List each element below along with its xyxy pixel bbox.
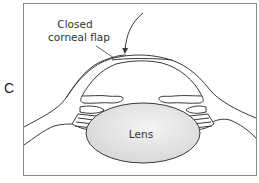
flap-arrow — [125, 13, 143, 51]
sclera-left-inner — [24, 124, 72, 145]
flap-label-line2: corneal flap — [48, 31, 110, 43]
eye-cross-section-diagram: Closed corneal flap Lens — [0, 0, 259, 183]
corneal-flap-line — [112, 59, 172, 61]
iris-right — [159, 96, 203, 104]
sclera-right-inner — [208, 119, 256, 138]
flap-leader-line — [96, 46, 114, 58]
iris-left — [81, 96, 123, 104]
flap-label-line1: Closed — [57, 18, 92, 30]
lens-label: Lens — [129, 128, 153, 140]
